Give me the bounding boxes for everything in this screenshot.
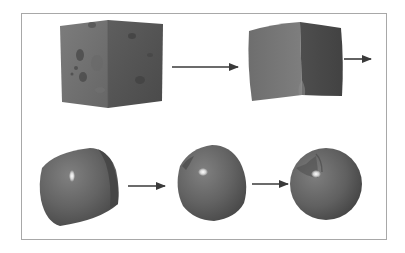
morph-diagram: [0, 0, 405, 253]
deformed-cube-shape: [248, 22, 342, 101]
sphere-shape: [290, 148, 362, 220]
rounded-blob-shape: [178, 145, 247, 221]
rounded-cube-shape: [40, 148, 119, 226]
textured-cube-shape: [60, 20, 163, 108]
